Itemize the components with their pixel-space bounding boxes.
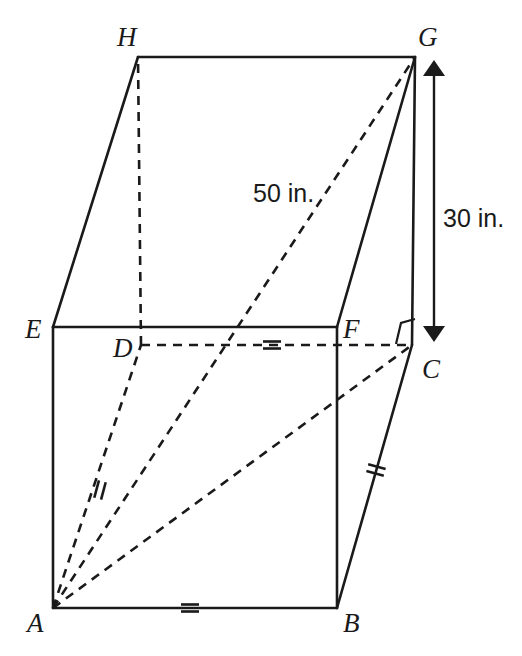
edge-F-G	[337, 57, 415, 327]
dimension-height-label: 30 in.	[443, 204, 504, 232]
vertex-label-B: B	[343, 608, 360, 638]
edge-D-H	[138, 57, 141, 345]
diagonal-A-C	[53, 345, 412, 608]
edge-A-D	[53, 345, 141, 608]
vertex-label-G: G	[418, 22, 438, 52]
vertex-label-A: A	[25, 608, 44, 638]
vertex-label-H: H	[116, 22, 138, 52]
edge-B-C	[337, 345, 412, 608]
prism-diagram: 30 in.50 in.HGEFDCAB	[0, 0, 522, 656]
vertex-label-F: F	[342, 314, 360, 344]
edge-E-H	[53, 57, 138, 327]
dimension-height	[423, 60, 445, 342]
vertex-label-E: E	[24, 314, 42, 344]
dimension-diagonal-label: 50 in.	[253, 179, 314, 207]
figure-canvas: 30 in.50 in.HGEFDCAB	[0, 0, 522, 656]
edge-C-G	[412, 57, 415, 345]
vertex-label-D: D	[112, 333, 133, 363]
arrowhead-down-icon	[423, 326, 445, 342]
arrowhead-up-icon	[423, 60, 445, 76]
vertex-label-C: C	[422, 354, 441, 384]
